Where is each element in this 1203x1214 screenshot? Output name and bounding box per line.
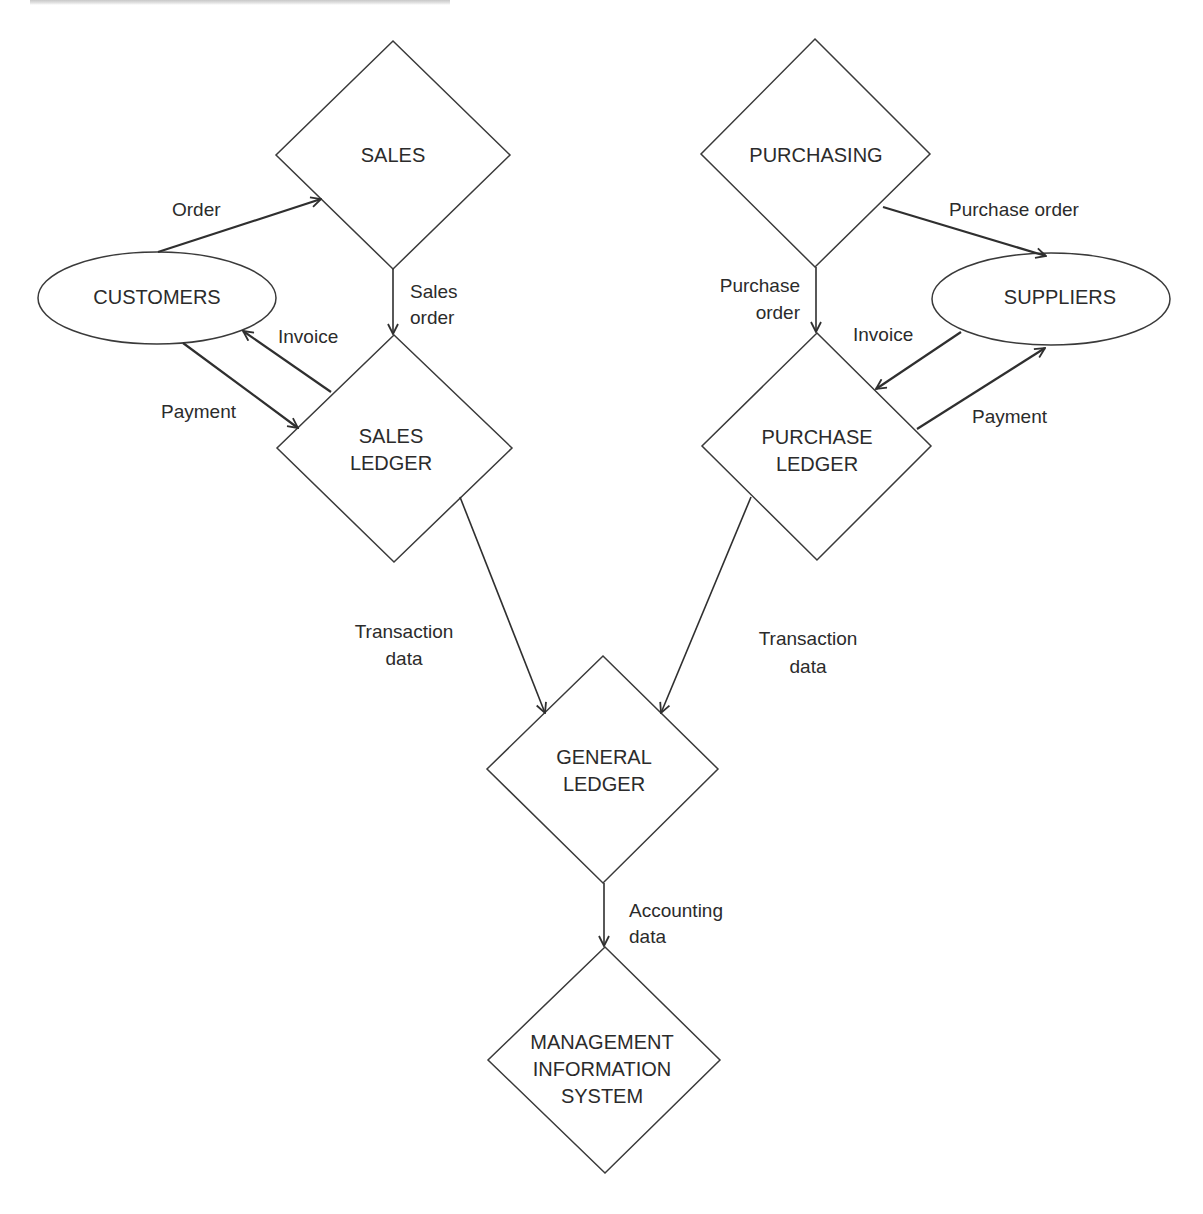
node-label-line-2: INFORMATION [533, 1058, 672, 1080]
edge-label-line-1: Sales [410, 281, 458, 302]
node-label-line-3: SYSTEM [561, 1085, 643, 1107]
edge-purchase-order-supplier: Purchase order [883, 199, 1080, 256]
edge-supplier-invoice: Invoice [853, 324, 961, 389]
edge-label: Payment [972, 406, 1048, 427]
node-label-line-1: MANAGEMENT [530, 1031, 673, 1053]
edge-label-line-1: Accounting [629, 900, 723, 921]
node-customers: CUSTOMERS [38, 252, 276, 344]
node-purchasing: PURCHASING [701, 39, 930, 267]
edge-label-line-2: data [629, 926, 666, 947]
node-suppliers: SUPPLIERS [932, 253, 1170, 345]
node-general-ledger: GENERAL LEDGER [487, 656, 718, 883]
edge-purchase-order-ledger: Purchase order [720, 267, 816, 332]
edge-supplier-payment: Payment [917, 348, 1048, 429]
diamond-shape [277, 335, 512, 562]
arrow-icon [661, 497, 751, 713]
edge-label: Payment [161, 401, 237, 422]
flow-diagram: SALES PURCHASING CUSTOMERS SUPPLIERS SAL… [0, 0, 1203, 1214]
edge-label-line-2: data [790, 656, 827, 677]
edge-sales-order: Sales order [393, 269, 458, 334]
node-label: CUSTOMERS [93, 286, 220, 308]
node-label-line-1: SALES [359, 425, 423, 447]
edge-label-line-2: order [410, 307, 455, 328]
edge-order: Order [158, 199, 321, 252]
node-label-line-2: LEDGER [563, 773, 645, 795]
edge-accounting: Accounting data [604, 883, 723, 947]
node-management-information-system: MANAGEMENT INFORMATION SYSTEM [488, 947, 720, 1173]
edge-label-line-2: data [386, 648, 423, 669]
node-label: SUPPLIERS [1004, 286, 1116, 308]
node-label: PURCHASING [749, 144, 882, 166]
node-label-line-1: GENERAL [556, 746, 652, 768]
node-purchase-ledger: PURCHASE LEDGER [702, 333, 931, 560]
edge-label: Order [172, 199, 221, 220]
edge-label-line-1: Transaction [759, 628, 858, 649]
arrow-icon [460, 497, 545, 713]
node-label-line-1: PURCHASE [761, 426, 872, 448]
edge-label: Invoice [853, 324, 913, 345]
node-label: SALES [361, 144, 425, 166]
node-label-line-2: LEDGER [350, 452, 432, 474]
node-label-line-2: LEDGER [776, 453, 858, 475]
edge-label: Purchase order [949, 199, 1080, 220]
diamond-shape [487, 656, 718, 883]
edge-customer-invoice: Invoice [243, 326, 338, 392]
edge-label: Invoice [278, 326, 338, 347]
edge-label-line-2: order [756, 302, 801, 323]
node-sales: SALES [276, 41, 510, 269]
edge-label-line-1: Purchase [720, 275, 800, 296]
edge-label-line-1: Transaction [355, 621, 454, 642]
node-sales-ledger: SALES LEDGER [277, 335, 512, 562]
